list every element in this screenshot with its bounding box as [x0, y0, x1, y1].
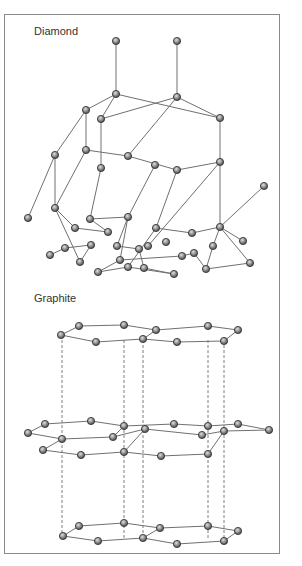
atom-icon: [46, 251, 53, 258]
atom-icon: [113, 242, 120, 249]
bond: [124, 325, 156, 330]
atom-icon: [51, 204, 58, 211]
atom-icon: [92, 338, 99, 345]
atom-icon: [246, 259, 253, 266]
bond: [55, 208, 80, 262]
atom-icon: [139, 534, 146, 541]
bond: [220, 186, 264, 227]
atom-icon: [87, 241, 94, 248]
atom-icon: [152, 224, 159, 231]
bond: [120, 217, 128, 260]
bond: [128, 165, 155, 217]
atom-icon: [220, 427, 227, 434]
interlayer-dashed-lines: [62, 340, 224, 540]
bond: [98, 538, 143, 541]
atom-icon: [234, 527, 241, 534]
atom-icon: [173, 338, 180, 345]
atom-icon: [77, 451, 84, 458]
atom-icon: [173, 166, 180, 173]
bond: [156, 170, 177, 228]
atom-icon: [75, 322, 82, 329]
atom-icon: [59, 532, 66, 539]
atom-icon: [135, 245, 142, 252]
bond: [160, 526, 208, 528]
atom-icon: [151, 161, 158, 168]
bond: [238, 424, 269, 430]
atom-icon: [141, 425, 148, 432]
bond: [79, 523, 124, 526]
atom-icon: [120, 321, 127, 328]
atom-icon: [139, 335, 146, 342]
atom-icon: [173, 37, 180, 44]
atom-icon: [82, 106, 89, 113]
atom-icon: [75, 522, 82, 529]
atom-icon: [216, 223, 223, 230]
bond-lines: [28, 41, 269, 544]
bond: [208, 326, 238, 330]
atom-icon: [94, 537, 101, 544]
atom-icon: [97, 115, 104, 122]
atom-icon: [94, 268, 101, 275]
bond: [224, 430, 269, 431]
atom-icon: [97, 164, 104, 171]
atom-icon: [116, 256, 123, 263]
atom-icon: [24, 429, 31, 436]
atom-icon: [124, 213, 131, 220]
bond: [79, 325, 124, 326]
bond: [174, 424, 208, 426]
bond: [144, 268, 174, 274]
bond: [28, 433, 62, 439]
bond: [143, 538, 177, 544]
atom-icon: [124, 263, 131, 270]
bond: [148, 162, 220, 246]
atom-icon: [86, 215, 93, 222]
atom-icon: [209, 242, 216, 249]
bond: [120, 256, 182, 260]
atom-icon: [220, 537, 227, 544]
bond: [81, 452, 124, 455]
atom-icon: [51, 151, 58, 158]
atom-icon: [198, 431, 205, 438]
bond: [177, 541, 224, 544]
bond: [156, 326, 208, 330]
atom-icon: [188, 229, 195, 236]
bond: [161, 454, 208, 456]
atom-icon: [104, 228, 111, 235]
atom-icon: [202, 265, 209, 272]
atom-icon: [120, 422, 127, 429]
bond: [208, 526, 238, 531]
bond: [208, 431, 224, 454]
atom-icon: [157, 452, 164, 459]
bond: [90, 168, 101, 219]
atom-icon: [170, 420, 177, 427]
bond: [177, 97, 220, 118]
bond: [124, 429, 145, 452]
bond: [206, 263, 250, 269]
atom-icon: [234, 420, 241, 427]
bond: [117, 217, 128, 246]
atom-icon: [173, 540, 180, 547]
atom-icon: [41, 420, 48, 427]
bond: [45, 421, 91, 424]
atom-icon: [24, 214, 31, 221]
bond: [61, 335, 96, 342]
bond: [177, 341, 224, 342]
atom-icon: [204, 450, 211, 457]
atom-icon: [239, 237, 246, 244]
atom-icon: [124, 152, 131, 159]
bond: [28, 155, 55, 218]
bond: [145, 429, 202, 435]
atom-icon: [260, 182, 267, 189]
atom-icon: [61, 244, 68, 251]
atom-icon: [152, 326, 159, 333]
atom-icon: [204, 522, 211, 529]
atom-icon: [144, 242, 151, 249]
atom-icon: [220, 337, 227, 344]
atom-icon: [76, 258, 83, 265]
bond: [124, 452, 161, 456]
atom-icon: [178, 252, 185, 259]
atom-icon: [216, 114, 223, 121]
bond: [96, 339, 143, 342]
bond: [63, 536, 98, 541]
bond: [91, 421, 124, 426]
